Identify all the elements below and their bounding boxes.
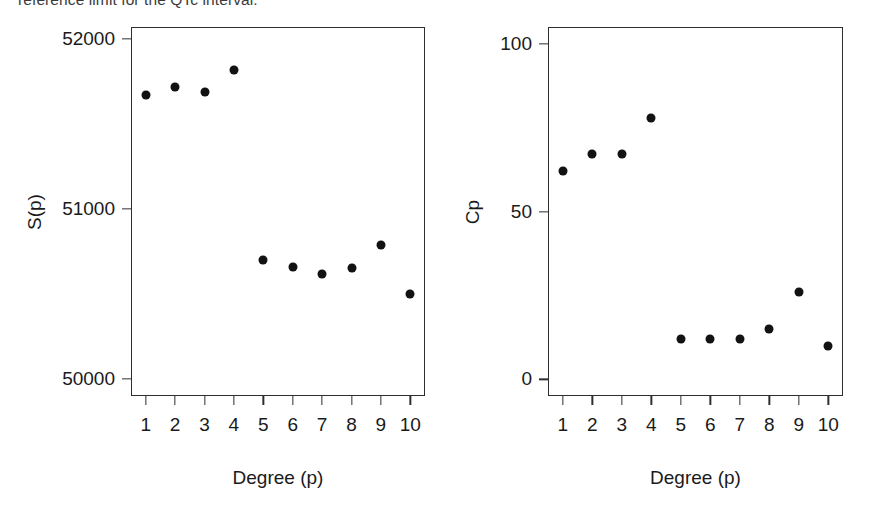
x-tick-label: 2 [587,414,598,436]
data-point [376,240,385,249]
y-tick-label: 51000 [62,198,115,220]
x-tick-label: 7 [734,414,745,436]
data-point [794,288,803,297]
data-point [676,334,685,343]
x-tick-label: 10 [818,414,839,436]
x-tick-label: 2 [170,414,181,436]
x-tick-mark [174,396,175,405]
x-tick-label: 9 [376,414,387,436]
x-tick-mark [321,396,322,405]
data-point [617,150,626,159]
x-tick-label: 10 [400,414,421,436]
y-tick-label: 100 [500,33,532,55]
data-point [171,82,180,91]
y-tick-mark [539,211,548,212]
y-tick-label: 50 [511,201,532,223]
right-plot-panel: 05010012345678910Degree (p)Cp [444,0,888,522]
x-tick-mark [233,396,234,405]
x-tick-label: 8 [346,414,357,436]
data-point [824,341,833,350]
plot-frame [548,27,843,396]
x-tick-mark [798,396,799,405]
y-tick-mark [122,208,131,209]
x-tick-mark [204,396,205,405]
x-tick-mark [592,396,593,405]
x-tick-mark [145,396,146,405]
x-tick-label: 1 [140,414,151,436]
x-tick-label: 5 [258,414,269,436]
figure-canvas: reference limit for the QTc interval. 50… [0,0,888,522]
x-tick-label: 8 [764,414,775,436]
x-tick-mark [263,396,264,405]
y-tick-mark [539,43,548,44]
y-tick-mark [539,379,548,380]
x-tick-mark [680,396,681,405]
data-point [647,113,656,122]
x-tick-label: 4 [229,414,240,436]
data-point [765,324,774,333]
data-point [735,334,744,343]
y-tick-label: 52000 [62,28,115,50]
data-point [406,289,415,298]
x-tick-label: 6 [705,414,716,436]
x-tick-label: 9 [793,414,804,436]
x-tick-mark [410,396,411,405]
x-tick-mark [380,396,381,405]
y-axis-title: Cp [462,199,484,223]
x-tick-mark [562,396,563,405]
x-axis-title: Degree (p) [650,467,741,489]
x-tick-mark [621,396,622,405]
x-tick-mark [292,396,293,405]
y-tick-mark [122,378,131,379]
x-tick-mark [769,396,770,405]
data-point [588,150,597,159]
x-tick-label: 7 [317,414,328,436]
x-tick-mark [710,396,711,405]
data-point [558,167,567,176]
left-plot-panel: 50000510005200012345678910Degree (p)S(p) [0,0,444,522]
x-tick-label: 4 [646,414,657,436]
data-point [706,334,715,343]
data-point [229,65,238,74]
data-point [318,269,327,278]
x-tick-mark [739,396,740,405]
y-tick-mark [122,38,131,39]
data-point [288,262,297,271]
y-tick-label: 0 [521,368,532,390]
x-tick-label: 5 [675,414,686,436]
data-point [200,87,209,96]
x-tick-label: 1 [557,414,568,436]
x-tick-label: 6 [287,414,298,436]
x-axis-title: Degree (p) [233,467,324,489]
y-axis-title: S(p) [24,194,46,230]
x-tick-mark [651,396,652,405]
data-point [259,255,268,264]
data-point [141,91,150,100]
data-point [347,264,356,273]
y-tick-label: 50000 [62,368,115,390]
x-tick-label: 3 [199,414,210,436]
x-tick-label: 3 [616,414,627,436]
x-tick-mark [828,396,829,405]
x-tick-mark [351,396,352,405]
